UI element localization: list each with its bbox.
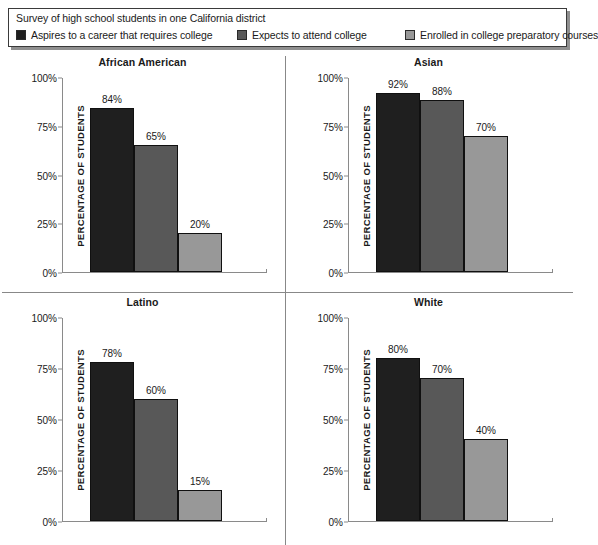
y-axis-title: PERCENTAGE OF STUDENTS — [361, 349, 372, 491]
y-axis-tick-label: 75% — [37, 364, 57, 375]
bar-rect[interactable] — [178, 233, 222, 272]
y-axis-tick-mark — [58, 126, 62, 127]
legend-label-expects: Expects to attend college — [252, 29, 367, 41]
y-axis-title: PERCENTAGE OF STUDENTS — [75, 105, 86, 247]
legend-item-aspires: Aspires to a career that requires colleg… — [16, 29, 213, 41]
y-axis-tick-label: 50% — [37, 415, 57, 426]
x-axis-end-tick — [266, 518, 267, 522]
legend-label-enrolled: Enrolled in college preparatory courses — [420, 29, 598, 41]
bar-value-label: 70% — [420, 364, 464, 375]
y-axis-tick-mark — [344, 369, 348, 370]
plot-area: PERCENTAGE OF STUDENTS0%25%50%75%100%80%… — [348, 318, 553, 522]
y-axis-tick-mark — [344, 471, 348, 472]
bar-value-label: 60% — [134, 385, 178, 396]
bar-item[interactable]: 80% — [376, 317, 420, 521]
plot-area: PERCENTAGE OF STUDENTS0%25%50%75%100%78%… — [62, 318, 267, 522]
chart-panel-african-american: African American PERCENTAGE OF STUDENTS0… — [0, 56, 285, 292]
legend-box: Survey of high school students in one Ca… — [8, 8, 567, 47]
bar-value-label: 84% — [90, 94, 134, 105]
bar-item[interactable]: 88% — [420, 77, 464, 272]
y-axis-tick-label: 25% — [37, 219, 57, 230]
panel-divider-horizontal — [2, 292, 573, 293]
legend-label-aspires: Aspires to a career that requires colleg… — [31, 29, 213, 41]
y-axis-tick-mark — [344, 420, 348, 421]
bar-value-label: 80% — [376, 344, 420, 355]
bar-value-label: 88% — [420, 86, 464, 97]
bar-value-label: 15% — [178, 476, 222, 487]
bar-item[interactable]: 84% — [90, 77, 134, 272]
y-axis-tick-mark — [58, 369, 62, 370]
chart-panel-latino: Latino PERCENTAGE OF STUDENTS0%25%50%75%… — [0, 296, 285, 545]
y-axis-tick-label: 100% — [31, 73, 57, 84]
x-axis-end-tick — [552, 269, 553, 273]
x-axis-line — [62, 521, 267, 522]
legend-item-enrolled: Enrolled in college preparatory courses — [405, 29, 598, 41]
y-axis-tick-mark — [58, 224, 62, 225]
y-axis-tick-mark — [58, 471, 62, 472]
bar-rect[interactable] — [420, 100, 464, 272]
plot-area: PERCENTAGE OF STUDENTS0%25%50%75%100%92%… — [348, 78, 553, 273]
panel-title: White — [286, 296, 571, 308]
panel-title: African American — [0, 56, 285, 68]
bar-value-label: 70% — [464, 122, 508, 133]
bar-rect[interactable] — [90, 108, 134, 272]
y-axis-tick-mark — [344, 318, 348, 319]
y-axis-tick-label: 100% — [317, 313, 343, 324]
y-axis-tick-label: 25% — [323, 219, 343, 230]
bar-item[interactable]: 15% — [178, 317, 222, 521]
x-axis-line — [348, 521, 553, 522]
bar-rect[interactable] — [464, 439, 508, 521]
bar-rect[interactable] — [376, 358, 420, 521]
bar-item[interactable]: 70% — [420, 317, 464, 521]
y-axis-tick-label: 50% — [323, 170, 343, 181]
bar-rect[interactable] — [134, 399, 178, 521]
y-axis-tick-mark — [344, 224, 348, 225]
bar-rect[interactable] — [178, 490, 222, 521]
bar-item[interactable]: 65% — [134, 77, 178, 272]
bar-item[interactable]: 70% — [464, 77, 508, 272]
y-axis-line — [62, 318, 63, 522]
y-axis-tick-mark — [344, 78, 348, 79]
bar-group: 78%60%15% — [90, 317, 222, 521]
y-axis-title: PERCENTAGE OF STUDENTS — [361, 105, 372, 247]
bar-rect[interactable] — [420, 378, 464, 521]
legend-items: Aspires to a career that requires colleg… — [16, 29, 561, 45]
legend-caption: Survey of high school students in one Ca… — [16, 12, 265, 24]
panel-title: Latino — [0, 296, 285, 308]
y-axis-tick-label: 25% — [37, 466, 57, 477]
bar-item[interactable]: 20% — [178, 77, 222, 272]
y-axis-line — [348, 78, 349, 273]
bar-value-label: 65% — [134, 131, 178, 142]
chart-panel-white: White PERCENTAGE OF STUDENTS0%25%50%75%1… — [286, 296, 571, 545]
y-axis-tick-mark — [58, 78, 62, 79]
y-axis-tick-label: 50% — [37, 170, 57, 181]
legend-item-expects: Expects to attend college — [237, 29, 367, 41]
legend-swatch-dark-icon — [16, 30, 26, 40]
y-axis-tick-label: 75% — [323, 121, 343, 132]
bar-rect[interactable] — [90, 362, 134, 521]
y-axis-tick-mark — [58, 318, 62, 319]
bar-item[interactable]: 92% — [376, 77, 420, 272]
x-axis-line — [62, 272, 267, 273]
y-axis-tick-label: 75% — [323, 364, 343, 375]
bar-item[interactable]: 78% — [90, 317, 134, 521]
y-axis-tick-mark — [344, 126, 348, 127]
bar-rect[interactable] — [134, 145, 178, 272]
x-axis-end-tick — [266, 269, 267, 273]
y-axis-tick-label: 100% — [317, 73, 343, 84]
bar-item[interactable]: 40% — [464, 317, 508, 521]
bar-group: 84%65%20% — [90, 77, 222, 272]
y-axis-tick-label: 100% — [31, 313, 57, 324]
x-axis-line — [348, 272, 553, 273]
y-axis-tick-label: 0% — [43, 268, 57, 279]
y-axis-tick-label: 0% — [43, 517, 57, 528]
bar-item[interactable]: 60% — [134, 317, 178, 521]
bar-value-label: 40% — [464, 425, 508, 436]
bar-group: 80%70%40% — [376, 317, 508, 521]
y-axis-tick-label: 75% — [37, 121, 57, 132]
bar-rect[interactable] — [376, 93, 420, 272]
y-axis-tick-label: 50% — [323, 415, 343, 426]
y-axis-tick-mark — [58, 420, 62, 421]
legend-swatch-light-icon — [405, 30, 415, 40]
bar-rect[interactable] — [464, 136, 508, 273]
